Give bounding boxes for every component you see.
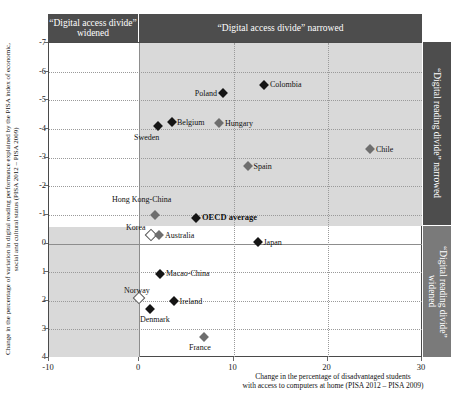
ytick-0: 0 [24, 237, 46, 247]
band-access-divide-widened-label: “Digital access divide” widened [49, 18, 137, 39]
point-label-france: France [189, 343, 211, 352]
point-label-australia: Australia [165, 231, 194, 240]
gridline-y--3 [49, 158, 422, 159]
point-japan[interactable] [253, 237, 263, 247]
point-label-sweden: Sweden [134, 133, 159, 142]
ytickmark--2 [44, 185, 48, 186]
point-label-macao-china: Macao-China [166, 269, 210, 278]
point-label-colombia: Colombia [270, 80, 302, 89]
quadrant-shade-upper-right [139, 43, 422, 226]
xtickmark-0 [138, 357, 139, 361]
point-label-denmark: Denmark [140, 315, 170, 324]
xtick-30: 30 [406, 362, 436, 372]
point-label-belgium: Belgium [177, 118, 205, 127]
ytick-4: 4 [24, 351, 46, 361]
ytickmark-1 [44, 271, 48, 272]
ytick-1: 1 [24, 266, 46, 276]
ytick--5: -5 [24, 94, 46, 104]
x-axis-title: Change in the percentage of disadvantage… [210, 372, 456, 390]
band-access-divide-widened: “Digital access divide” widened [48, 14, 138, 42]
point-label-chile: Chile [376, 145, 393, 154]
gridline-y--5 [49, 100, 422, 101]
xtick-20: 20 [312, 362, 342, 372]
xtick--10: -10 [33, 362, 63, 372]
xtickmark-30 [421, 357, 422, 361]
plot-area: Colombia Poland Belgium Sweden Hungary C… [48, 42, 422, 357]
point-label-hong-kong-china: Hong Kong-China [112, 195, 172, 205]
ytick--6: -6 [24, 66, 46, 76]
point-macao-china[interactable] [155, 269, 165, 279]
xtickmark--10 [48, 357, 49, 361]
ytick-3: 3 [24, 323, 46, 333]
point-denmark[interactable] [145, 304, 155, 314]
ytickmark-0 [44, 243, 48, 244]
point-label-japan: Japan [264, 238, 282, 247]
ytick--4: -4 [24, 123, 46, 133]
ytick-2: 2 [24, 294, 46, 304]
point-label-poland: Poland [171, 89, 217, 98]
gridline-y-2 [49, 301, 422, 302]
ytickmark-3 [44, 328, 48, 329]
ytickmark--5 [44, 99, 48, 100]
chart-figure: “Digital access divide” widened “Digital… [0, 0, 458, 399]
xtick-10: 10 [218, 362, 248, 372]
band-reading-divide-widened-label: “Digital reading divide” widened [427, 246, 448, 338]
y-axis-title: Change in the percentage of variation in… [2, 42, 22, 357]
ytick--2: -2 [24, 180, 46, 190]
band-reading-divide-widened: “Digital reading divide” widened [423, 226, 451, 357]
gridline-y--2 [49, 186, 422, 187]
point-label-norway: Norway [124, 286, 150, 295]
gridline-x-20 [328, 43, 329, 357]
gridline-y-1 [49, 272, 422, 273]
point-ireland[interactable] [169, 296, 179, 306]
ytickmark-2 [44, 300, 48, 301]
ytickmark--7 [44, 42, 48, 43]
ytickmark--1 [44, 214, 48, 215]
ytickmark--4 [44, 128, 48, 129]
band-reading-divide-narrowed: “Digital reading divide” narrowed [423, 42, 451, 225]
ytick--3: -3 [24, 151, 46, 161]
gridline-y-3 [49, 329, 422, 330]
xtickmark-10 [233, 357, 234, 361]
band-reading-divide-narrowed-label: “Digital reading divide” narrowed [432, 68, 443, 198]
xtick-0: 0 [123, 362, 153, 372]
gridline-y--4 [49, 129, 422, 130]
xtickmark-20 [327, 357, 328, 361]
ytickmark--6 [44, 71, 48, 72]
band-access-divide-narrowed-label: “Digital access divide” narrowed [218, 23, 344, 34]
band-access-divide-narrowed: “Digital access divide” narrowed [139, 14, 422, 42]
point-france[interactable] [199, 332, 209, 342]
gridline-y--6 [49, 72, 422, 73]
axis-y-zero [49, 244, 422, 245]
point-australia[interactable] [154, 230, 164, 240]
point-label-ireland: Ireland [180, 297, 203, 306]
point-label-oecd-average: OECD average [202, 213, 257, 222]
ytick--7: -7 [24, 37, 46, 47]
point-label-korea: Korea [126, 223, 146, 232]
ytick--1: -1 [24, 208, 46, 218]
ytickmark--3 [44, 157, 48, 158]
gridline-x-10 [234, 43, 235, 357]
point-label-hungary: Hungary [225, 119, 253, 128]
point-label-spain: Spain [254, 162, 272, 171]
